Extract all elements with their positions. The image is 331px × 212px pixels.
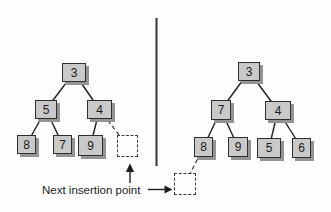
left-insertion-placeholder-box (117, 135, 138, 157)
right-tree-node-ll: 8 (194, 137, 213, 157)
right-tree-node-rr: 6 (292, 138, 311, 158)
left-tree-node-r: 4 (87, 100, 112, 119)
left-tree-node-root: 3 (62, 63, 86, 82)
left-tree-node-lr: 7 (53, 135, 72, 154)
right-tree-node-l: 7 (211, 100, 231, 120)
right-insertion-placeholder-box (174, 173, 196, 195)
left-tree-node-ll: 8 (17, 135, 36, 154)
right-tree-node-root: 3 (238, 62, 260, 81)
left-tree-node-l: 5 (35, 100, 57, 119)
next-insertion-label: Next insertion point (42, 184, 140, 196)
right-tree-node-rl: 5 (257, 138, 281, 158)
right-tree-node-r: 4 (265, 101, 291, 120)
left-tree-node-rl: 9 (78, 135, 103, 156)
up-arrow-icon (126, 164, 134, 184)
binary-tree-insertion-diagram: 3 5 4 8 7 9 3 7 4 8 9 5 6 Next insertion… (0, 0, 331, 212)
right-tree-node-lr: 9 (228, 137, 248, 157)
right-arrow-icon (148, 186, 173, 194)
